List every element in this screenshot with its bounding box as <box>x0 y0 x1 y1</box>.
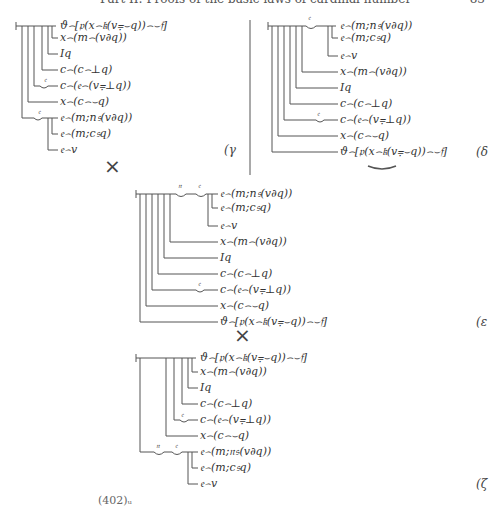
formula-line: 𝔢⌢(m;n𝔰(v∂q)) <box>220 187 292 201</box>
formula-line: c⌢(c⌢⊥q) <box>200 397 252 411</box>
formula-line: x⌢(c⌢⌣q) <box>340 129 389 143</box>
concavity-letter: 𝔢 <box>38 108 41 116</box>
formula-line: x⌢(c⌢⌣q) <box>200 429 249 443</box>
formula-line: ϑ⌢[𝔭(x⌢𝔨(v⩦⌣q))⌢⌣𝔣] <box>200 351 307 365</box>
formula-line: 𝔢⌢(m;𝔫𝔰(v∂q)) <box>200 445 271 459</box>
formula-line: c⌢(𝔢⌢(v⩦⊥q)) <box>340 113 411 127</box>
formula-line: c⌢(𝔢⌢(v⩦⊥q)) <box>220 283 291 297</box>
formula-line: 𝔢⌢(m;c𝔰q) <box>340 31 391 45</box>
footnote-marker: (402)ᵤ <box>98 494 132 507</box>
formula-line: 𝔢⌢(m;c𝔰q) <box>200 461 251 475</box>
concavity-letter: 𝔢 <box>308 14 311 22</box>
label-delta: (δ <box>476 145 488 159</box>
formula-line: 𝔢⌢(m;c𝔰q) <box>60 127 111 141</box>
concavity-letter: 𝔢 <box>44 76 47 84</box>
concavity-letter: 𝔢 <box>317 110 320 118</box>
formula-line: Iq <box>200 381 211 395</box>
gamma-strokes <box>16 22 58 150</box>
zeta-strokes <box>136 354 198 484</box>
formula-line: c⌢(c⌢⊥q) <box>340 97 392 111</box>
formula-line: Iq <box>340 81 351 95</box>
formula-line: x⌢(m⌢(v∂q)) <box>60 31 127 45</box>
formula-line: 𝔢⌢v <box>220 219 237 233</box>
label-gamma: (γ <box>224 143 236 157</box>
concavity-letter: 𝔢 <box>181 411 184 419</box>
concavity-letter: 𝔢 <box>175 442 178 450</box>
formula-line: 𝔢⌢v <box>200 477 217 491</box>
formula-line: c⌢(c⌢⊥q) <box>60 63 112 77</box>
formula-line: 𝔢⌢(m;c𝔰q) <box>220 201 271 215</box>
formula-line: x⌢(m⌢(v∂q)) <box>200 365 267 379</box>
concavity-letter: 𝔫 <box>178 182 182 190</box>
formula-line: x⌢(c⌢⌣q) <box>60 95 109 109</box>
formula-line: c⌢(𝔢⌢(v⩦⊥q)) <box>200 413 271 427</box>
formula-line: 𝔢⌢v <box>340 49 357 63</box>
formula-line: x⌢(m⌢(v∂q)) <box>220 235 287 249</box>
formula-line: x⌢(m⌢(v∂q)) <box>340 65 407 79</box>
formula-line: 𝔢⌢(m;n𝔰(v∂q)) <box>60 111 132 125</box>
formula-line: x⌢(c⌢⌣q) <box>220 299 269 313</box>
cross-symbol: × <box>104 154 121 178</box>
epsilon-strokes <box>136 190 218 322</box>
formula-line: c⌢(c⌢⊥q) <box>220 267 272 281</box>
formula-line: Iq <box>220 251 231 265</box>
label-zeta: (ζ <box>476 477 487 491</box>
formula-line: 𝔢⌢v <box>60 143 77 157</box>
formula-line: c⌢(𝔢⌢(v⩦⊥q)) <box>60 79 131 93</box>
concavity-letter: 𝔢 <box>198 182 201 190</box>
label-epsilon: (ε <box>476 315 487 329</box>
concavity-letter: 𝔫 <box>156 442 160 450</box>
cross-symbol: × <box>234 323 251 347</box>
concavity-letter: 𝔢 <box>198 280 201 288</box>
formula-line: Iq <box>60 47 71 61</box>
formula-line: ϑ⌢[𝔭(x⌢𝔨(v⩦⌣q))⌢⌣𝔣] <box>340 145 447 159</box>
